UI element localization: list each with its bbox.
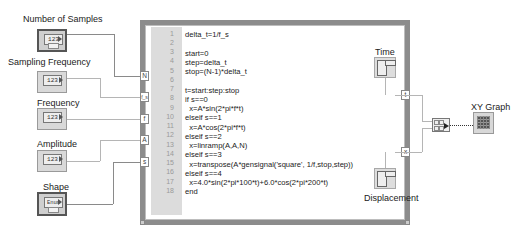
line-number: 15 — [166, 159, 174, 166]
bundle-node[interactable] — [432, 118, 450, 132]
bundle-output-arrow-icon — [444, 123, 449, 129]
wire-f[interactable] — [67, 119, 141, 120]
representation-icon — [48, 43, 59, 49]
line-number: 10 — [166, 113, 174, 120]
line-number: 8 — [170, 94, 174, 101]
displacement-indicator[interactable] — [374, 168, 396, 189]
code-line: elseif s==2 — [185, 132, 353, 141]
code-line: x=A*cos(2*pi*f*t) — [185, 123, 353, 132]
control-label-sampling-frequency: Sampling Frequency — [8, 57, 91, 67]
wire-t-segment[interactable] — [422, 95, 423, 121]
wire-t-segment[interactable] — [395, 95, 422, 96]
control-label-number-of-samples: Number of Samples — [23, 14, 103, 24]
code-line: x=transpose(A*gensignal('square', 1/f,st… — [185, 160, 353, 169]
graph-plot-icon — [477, 116, 490, 129]
wire-x-segment[interactable] — [395, 152, 422, 153]
code-line: step=delta_t — [185, 58, 353, 67]
line-number: 12 — [166, 131, 174, 138]
line-number: 3 — [170, 48, 174, 55]
control-label-shape: Shape — [43, 182, 69, 192]
control-label-amplitude: Amplitude — [37, 139, 77, 149]
output-terminal-icon — [59, 156, 63, 162]
code-line: end — [185, 187, 353, 196]
wire-n-segment[interactable] — [114, 76, 141, 77]
wire-x-segment[interactable] — [422, 128, 432, 129]
line-number: 17 — [166, 178, 174, 185]
input-terminal-a[interactable]: A — [140, 135, 149, 145]
frequency-control[interactable]: 123 — [37, 108, 67, 130]
line-number: 9 — [170, 104, 174, 111]
control-label-frequency: Frequency — [37, 98, 80, 108]
wire-s-segment[interactable] — [67, 204, 113, 205]
code-line — [185, 39, 353, 48]
code-line: x=linramp(A,A,N) — [185, 141, 353, 150]
shape-enum-control[interactable]: Enum — [37, 192, 67, 216]
input-terminal-n[interactable]: N — [140, 71, 149, 81]
wire-t-segment[interactable] — [422, 121, 432, 122]
wire-x-to-displacement[interactable] — [385, 152, 386, 169]
indicator-label-displacement: Displacement — [364, 193, 419, 203]
input-terminal-s[interactable]: s — [140, 157, 149, 167]
code-line: elseif s==1 — [185, 113, 353, 122]
amplitude-control[interactable]: 123 — [37, 150, 67, 172]
input-terminal-fs[interactable]: f_s — [140, 92, 149, 102]
wire-n-segment[interactable] — [67, 34, 114, 35]
output-terminal-icon — [59, 77, 63, 83]
wire-fs-segment[interactable] — [67, 78, 100, 79]
wire-s-segment[interactable] — [113, 162, 141, 163]
indicator-label-time: Time — [375, 47, 395, 57]
code-line: elseif s==4 — [185, 169, 353, 178]
output-terminal-icon — [58, 199, 62, 205]
number-of-samples-control[interactable]: 123 — [37, 29, 67, 52]
xy-graph-indicator[interactable] — [473, 112, 494, 134]
resize-handle[interactable] — [405, 220, 410, 225]
resize-handle[interactable] — [140, 220, 145, 225]
line-number: 6 — [170, 76, 174, 83]
line-number: 18 — [166, 187, 174, 194]
time-indicator[interactable] — [374, 57, 396, 78]
wire-fs-segment[interactable] — [100, 97, 141, 98]
code-line: t=start:step:stop — [185, 86, 353, 95]
wire-fs-segment[interactable] — [100, 78, 101, 97]
line-number: 2 — [170, 39, 174, 46]
array-index-icon — [385, 171, 396, 177]
wire-n-segment[interactable] — [114, 34, 115, 76]
line-number: 7 — [170, 85, 174, 92]
wire-x-segment[interactable] — [422, 128, 423, 152]
line-number: 13 — [166, 141, 174, 148]
line-number: 11 — [167, 122, 174, 129]
line-number: 5 — [170, 67, 174, 74]
representation-icon — [48, 207, 59, 213]
wire-a-segment[interactable] — [67, 161, 100, 162]
output-terminal-icon — [59, 114, 63, 120]
graph-label: XY Graph — [471, 102, 510, 112]
wire-t-to-time[interactable] — [385, 78, 386, 95]
line-number: 16 — [166, 168, 174, 175]
output-terminal-icon — [58, 36, 62, 42]
line-number: 14 — [166, 150, 174, 157]
array-index-icon — [385, 60, 396, 66]
code-line — [185, 76, 353, 85]
script-editor[interactable]: delta_t=1/f_s start=0step=delta_tstop=(N… — [185, 30, 353, 197]
code-line: x=A*sin(2*pi*f*t) — [185, 104, 353, 113]
code-line: stop=(N-1)*delta_t — [185, 67, 353, 76]
code-line: x=4.0*sin(2*pi*100*t)+6.0*cos(2*pi*200*t… — [185, 178, 353, 187]
line-number: 4 — [170, 57, 174, 64]
wire-a-segment[interactable] — [100, 140, 141, 141]
wire-s-segment[interactable] — [113, 162, 114, 204]
code-line: delta_t=1/f_s — [185, 30, 353, 39]
line-number: 1 — [170, 30, 174, 37]
code-line: elseif s==3 — [185, 150, 353, 159]
line-number-gutter: 1 2 3 4 5 6 7 8 9 10 11 12 13 14 15 16 1… — [151, 27, 182, 215]
sampling-frequency-control[interactable]: 123 — [37, 71, 67, 93]
code-line: if s==0 — [185, 95, 353, 104]
wire-cluster-to-graph[interactable] — [450, 125, 473, 126]
input-terminal-f[interactable]: f — [140, 114, 149, 124]
wire-a-segment[interactable] — [100, 140, 101, 161]
code-line: start=0 — [185, 49, 353, 58]
